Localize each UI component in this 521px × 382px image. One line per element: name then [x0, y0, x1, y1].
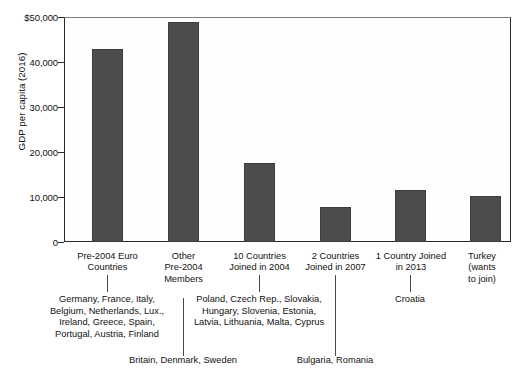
annotation-2-countries-2007: Bulgaria, Romania: [283, 355, 387, 367]
annotation-pre-2004-euro-countries: Germany, France, Italy, Belgium, Netherl…: [31, 294, 183, 340]
chart-canvas: GDP per capita (2016) $50,000 40,000 30,…: [0, 0, 521, 382]
connector-line-2-countries-2007: [335, 275, 336, 356]
y-tick-label-50000: $50,000: [0, 13, 58, 22]
y-tick-label-20000: 20,000: [0, 148, 58, 157]
bar-1-country-2013[interactable]: [395, 190, 426, 242]
annotation-other-pre-2004-members: Britain, Denmark, Sweden: [120, 355, 246, 367]
y-tick-mark-0: [58, 242, 64, 243]
connector-line-1-country-2013: [410, 275, 411, 292]
plot-area: [64, 17, 511, 242]
bar-10-countries-2004[interactable]: [244, 163, 275, 242]
y-tick-label-10000: 10,000: [0, 193, 58, 202]
y-tick-label-30000: 30,000: [0, 103, 58, 112]
annotation-10-countries-2004: Poland, Czech Rep., Slovakia, Hungary, S…: [183, 294, 335, 329]
connector-line-10-countries-2004: [259, 275, 260, 292]
y-axis-title: GDP per capita (2016): [16, 37, 27, 167]
bar-other-pre-2004-members[interactable]: [168, 22, 199, 242]
bar-pre-2004-euro-countries[interactable]: [92, 49, 123, 242]
y-tick-label-0: 0: [0, 238, 58, 247]
bar-turkey[interactable]: [470, 196, 501, 242]
y-tick-label-40000: 40,000: [0, 58, 58, 67]
annotation-1-country-2013: Croatia: [380, 294, 440, 306]
bar-2-countries-2007[interactable]: [320, 207, 351, 242]
connector-line-euro-countries: [107, 275, 108, 292]
x-category-label-turkey: Turkey (wants to join): [453, 251, 511, 285]
